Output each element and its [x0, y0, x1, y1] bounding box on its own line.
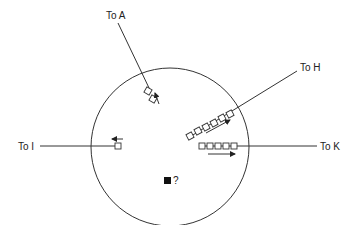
square-h-6	[226, 110, 234, 118]
square-i-1	[115, 143, 121, 149]
square-k-5	[231, 143, 237, 149]
filled-square-icon	[164, 177, 171, 184]
square-a-1	[144, 87, 152, 95]
label-to-h: To H	[300, 62, 321, 73]
label-to-i: To I	[18, 141, 34, 152]
diagram-canvas: To A To H To I To K	[0, 0, 360, 225]
square-k-3	[215, 143, 221, 149]
square-h-3	[202, 123, 210, 131]
unknown-marker: ?	[164, 175, 179, 186]
connection-k: To K	[199, 141, 340, 154]
connection-h: To H	[186, 62, 321, 140]
square-k-2	[207, 143, 213, 149]
question-label: ?	[173, 175, 179, 186]
square-h-1	[186, 132, 194, 140]
squares-k	[199, 143, 237, 149]
square-k-4	[223, 143, 229, 149]
label-to-a: To A	[106, 10, 126, 21]
connection-a: To A	[106, 10, 159, 104]
square-k-1	[199, 143, 205, 149]
connection-i: To I	[18, 139, 123, 152]
label-to-k: To K	[320, 141, 340, 152]
line-to-a	[118, 23, 150, 90]
